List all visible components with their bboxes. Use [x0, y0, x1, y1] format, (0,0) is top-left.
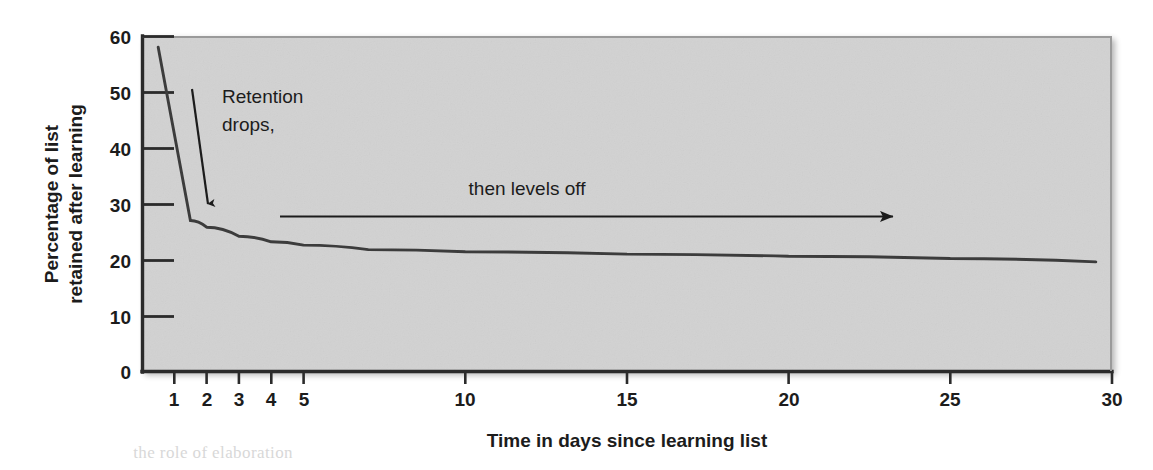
- x-axis-ticks: [174, 372, 1112, 384]
- x-tick-label: 4: [266, 389, 277, 410]
- y-tick-label: 0: [120, 362, 131, 383]
- y-tick-label: 10: [110, 307, 131, 328]
- x-tick-label: 30: [1101, 389, 1122, 410]
- y-axis-title: Percentage of list retained after learni…: [41, 104, 86, 304]
- annotation-line-2: drops,: [222, 114, 275, 135]
- y-axis-tick-labels: 60 50 40 30 20 10 0: [110, 27, 131, 383]
- annotation-line-1: then levels off: [469, 178, 587, 199]
- x-tick-label: 1: [169, 389, 180, 410]
- y-axis-title-line-1: Percentage of list: [41, 124, 62, 283]
- y-tick-label: 50: [110, 83, 131, 104]
- x-tick-label: 15: [616, 389, 638, 410]
- y-tick-label: 20: [110, 251, 131, 272]
- y-axis-title-line-2: retained after learning: [65, 104, 86, 304]
- forgetting-curve-figure: the role of elaboration: [0, 0, 1153, 470]
- x-tick-label: 25: [939, 389, 961, 410]
- x-tick-label: 10: [454, 389, 475, 410]
- retention-line-chart: 60 50 40 30 20 10 0 1 2 3 4 5: [0, 0, 1153, 470]
- y-tick-label: 30: [110, 195, 131, 216]
- x-tick-label: 2: [202, 389, 213, 410]
- x-tick-label: 3: [234, 389, 245, 410]
- x-tick-label: 20: [778, 389, 799, 410]
- annotation-line-1: Retention: [222, 86, 303, 107]
- y-tick-label: 40: [110, 139, 131, 160]
- x-tick-label: 5: [299, 389, 310, 410]
- y-tick-label: 60: [110, 27, 131, 48]
- x-axis-title: Time in days since learning list: [487, 430, 768, 451]
- x-axis-tick-labels: 1 2 3 4 5 10 15 20 25 30: [169, 389, 1123, 410]
